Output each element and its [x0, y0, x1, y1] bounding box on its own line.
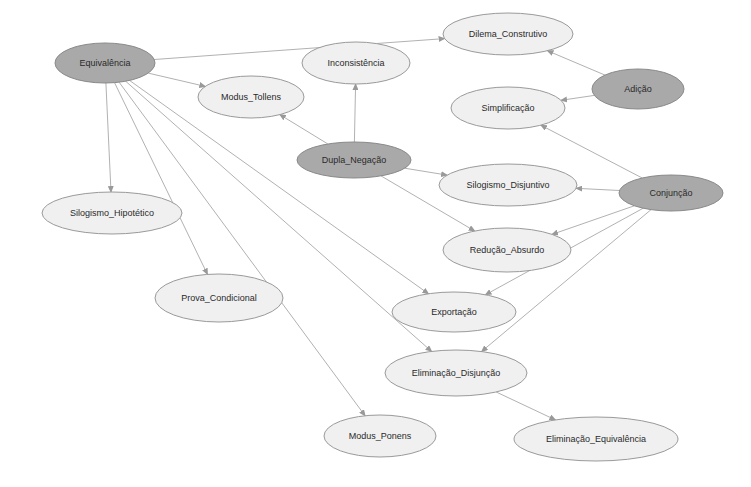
node-label: Equivalência	[79, 58, 130, 68]
node-label: Inconsistência	[327, 58, 384, 68]
node-dupla_negacao[interactable]: Dupla_Negação	[297, 142, 411, 178]
edge-equivalencia-to-modus_ponens	[119, 82, 365, 416]
edge-equivalencia-to-prova_condicional	[115, 83, 208, 275]
node-label: Silogismo_Disjuntivo	[466, 180, 549, 190]
node-label: Adição	[624, 84, 652, 94]
node-modus_ponens[interactable]: Modus_Ponens	[324, 415, 436, 457]
edge-dupla_negacao-to-inconsistencia	[354, 84, 355, 142]
node-label: Exportação	[431, 307, 477, 317]
edge-adicao-to-simplificacao	[561, 95, 594, 100]
node-label: Redução_Absurdo	[470, 245, 545, 255]
node-exportacao[interactable]: Exportação	[392, 292, 516, 332]
edges-layer	[106, 39, 651, 420]
node-eliminacao_disjuncao[interactable]: Eliminação_Disjunção	[385, 350, 527, 396]
node-simplificacao[interactable]: Simplificação	[451, 87, 565, 129]
edge-conjuncao-to-silogismo_disjuntivo	[576, 188, 619, 190]
node-dilema_construtivo[interactable]: Dilema_Construtivo	[443, 13, 573, 55]
node-label: Dupla_Negação	[322, 155, 387, 165]
node-equivalencia[interactable]: Equivalência	[55, 43, 155, 83]
edge-dupla_negacao-to-modus_tollens	[280, 115, 328, 144]
edge-eliminacao_disjuncao-to-eliminacao_equivalencia	[496, 392, 555, 420]
node-eliminacao_equivalencia[interactable]: Eliminação_Equivalência	[514, 417, 678, 461]
node-prova_condicional[interactable]: Prova_Condicional	[155, 274, 283, 322]
edge-adicao-to-dilema_construtivo	[547, 51, 605, 75]
node-silogismo_hipotetico[interactable]: Silogismo_Hipotético	[42, 192, 182, 234]
node-label: Eliminação_Disjunção	[412, 368, 501, 378]
node-label: Silogismo_Hipotético	[70, 208, 154, 218]
node-label: Prova_Condicional	[181, 293, 257, 303]
nodes-layer: EquivalênciaDilema_ConstrutivoInconsistê…	[42, 13, 723, 461]
node-reducao_absurdo[interactable]: Redução_Absurdo	[443, 228, 571, 272]
edge-equivalencia-to-silogismo_hipotetico	[106, 83, 111, 192]
inference-rules-graph: EquivalênciaDilema_ConstrutivoInconsistê…	[0, 0, 751, 487]
node-modus_tollens[interactable]: Modus_Tollens	[198, 76, 304, 118]
node-adicao[interactable]: Adição	[592, 69, 684, 109]
node-label: Simplificação	[481, 103, 534, 113]
node-label: Dilema_Construtivo	[469, 29, 548, 39]
node-label: Eliminação_Equivalência	[546, 434, 646, 444]
node-inconsistencia[interactable]: Inconsistência	[302, 42, 410, 84]
edge-dupla_negacao-to-silogismo_disjuntivo	[405, 168, 447, 175]
node-conjuncao[interactable]: Conjunção	[619, 175, 723, 211]
edge-equivalencia-to-modus_tollens	[148, 73, 205, 86]
node-silogismo_disjuntivo[interactable]: Silogismo_Disjuntivo	[439, 164, 577, 206]
node-label: Conjunção	[649, 188, 692, 198]
node-label: Modus_Ponens	[349, 431, 412, 441]
node-label: Modus_Tollens	[221, 92, 282, 102]
